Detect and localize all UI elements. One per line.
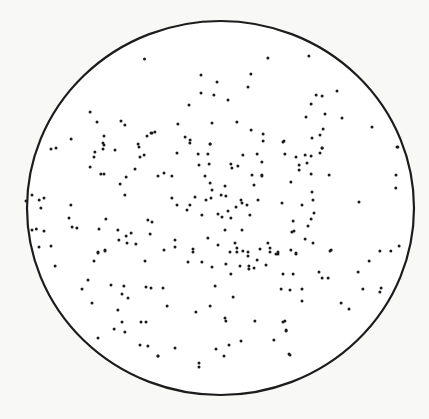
dot-235 <box>198 362 201 365</box>
dot-260 <box>348 308 351 311</box>
dot-188 <box>110 284 113 287</box>
dot-157 <box>298 164 301 167</box>
circular-field-boundary <box>27 21 414 395</box>
dot-51 <box>137 143 140 146</box>
dot-38 <box>341 117 344 120</box>
dot-142 <box>247 250 250 253</box>
dot-29 <box>150 132 153 135</box>
dot-141 <box>229 250 232 253</box>
dot-164 <box>395 174 398 177</box>
dot-129 <box>248 213 251 216</box>
dot-12 <box>235 121 238 124</box>
dot-73 <box>116 229 119 232</box>
dot-41 <box>311 137 314 140</box>
dot-228 <box>232 296 235 299</box>
dot-99 <box>230 167 233 170</box>
dot-250 <box>327 276 330 279</box>
dot-263 <box>288 353 291 356</box>
dot-106 <box>253 184 256 187</box>
dot-230 <box>253 319 256 322</box>
dot-45 <box>50 147 53 150</box>
dot-39 <box>322 127 325 130</box>
dot-139 <box>163 249 166 252</box>
dot-11 <box>211 121 214 124</box>
dot-30 <box>146 135 149 138</box>
dot-159 <box>298 169 301 172</box>
dot-196 <box>145 321 148 324</box>
dot-219 <box>229 273 232 276</box>
dot-118 <box>220 193 223 196</box>
dot-255 <box>301 299 304 302</box>
dot-61 <box>125 176 128 179</box>
dot-265 <box>35 227 38 230</box>
dot-144 <box>269 247 272 250</box>
dot-35 <box>310 103 313 106</box>
dot-78 <box>31 229 34 232</box>
dot-214 <box>253 267 256 270</box>
dot-172 <box>292 220 295 223</box>
dot-92 <box>206 153 209 156</box>
dot-20 <box>262 140 265 143</box>
dot-192 <box>116 308 119 311</box>
dot-126 <box>221 216 224 219</box>
dot-108 <box>170 175 173 178</box>
dot-209 <box>211 266 214 269</box>
dot-206 <box>235 250 238 253</box>
dot-68 <box>69 204 72 207</box>
dot-215 <box>265 264 268 267</box>
dot-98 <box>229 163 232 166</box>
dot-19 <box>262 132 265 135</box>
dot-195 <box>144 259 147 262</box>
dot-194 <box>145 285 148 288</box>
dot-168 <box>301 204 304 207</box>
dot-88 <box>188 141 191 144</box>
dot-233 <box>223 354 226 357</box>
dot-213 <box>247 268 250 271</box>
dot-17 <box>189 138 192 141</box>
dot-166 <box>312 199 315 202</box>
dot-120 <box>235 206 238 209</box>
dot-104 <box>209 181 212 184</box>
dot-146 <box>266 242 269 245</box>
dot-244 <box>329 250 332 253</box>
dot-53 <box>143 154 146 157</box>
dot-186 <box>87 279 90 282</box>
dot-57 <box>103 173 106 176</box>
dot-236 <box>198 365 201 368</box>
dot-96 <box>260 161 263 164</box>
dot-47 <box>102 141 105 144</box>
dot-13 <box>250 129 253 132</box>
dot-77 <box>117 239 120 242</box>
dot-165 <box>311 190 314 193</box>
dot-229 <box>240 340 243 343</box>
dot-103 <box>204 175 207 178</box>
dot-114 <box>186 209 189 212</box>
dot-130 <box>241 229 244 232</box>
dot-266 <box>71 226 74 229</box>
dot-212 <box>239 265 242 268</box>
dot-36 <box>305 115 308 118</box>
dot-210 <box>224 262 227 265</box>
dot-261 <box>283 319 286 322</box>
dot-216 <box>277 253 280 256</box>
dot-136 <box>206 236 209 239</box>
dot-116 <box>194 196 197 199</box>
dot-125 <box>241 202 244 205</box>
dot-254 <box>301 288 304 291</box>
dot-2 <box>200 74 203 77</box>
dot-218 <box>241 250 244 253</box>
dot-15 <box>153 131 156 134</box>
dot-237 <box>157 354 160 357</box>
dot-189 <box>121 293 124 296</box>
dot-71 <box>75 227 78 230</box>
dot-70 <box>104 218 107 221</box>
dot-243 <box>289 249 292 252</box>
dot-64 <box>31 193 34 196</box>
dot-203 <box>146 345 149 348</box>
dot-246 <box>282 273 285 276</box>
dot-75 <box>125 235 128 238</box>
dot-84 <box>134 243 137 246</box>
dot-177 <box>312 242 315 245</box>
dot-200 <box>97 337 100 340</box>
dot-124 <box>240 199 243 202</box>
